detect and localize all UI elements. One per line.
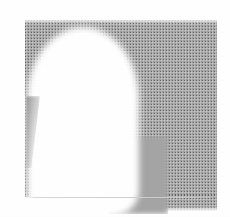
image-alt-text: Low-resolution halftoned grayscale scan … — [0, 0, 1, 1]
white-dome-silhouette — [27, 27, 139, 217]
faint-horizontal-rule — [25, 197, 212, 198]
scanned-image-canvas: Low-resolution halftoned grayscale scan … — [0, 0, 230, 217]
plate-top-edge-fade — [25, 19, 217, 24]
